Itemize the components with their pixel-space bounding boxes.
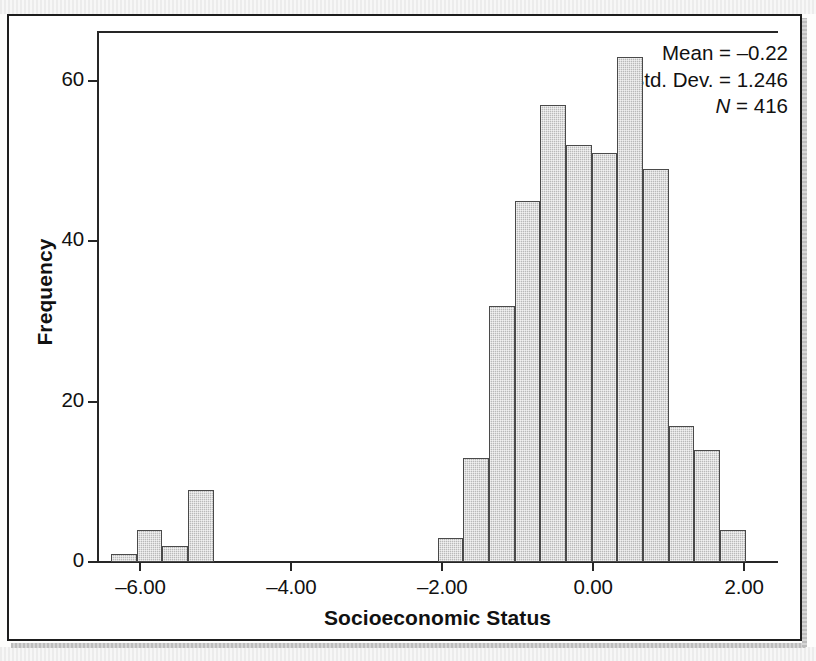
histogram-bar (566, 145, 592, 562)
y-axis-tick-label: 60 (24, 67, 84, 91)
figure-drop-shadow-right (802, 18, 807, 647)
std-dev-annotation: Std. Dev. = 1.246 (508, 67, 788, 94)
x-axis-tick-label: 2.00 (699, 575, 789, 599)
x-axis-tick-label: –6.00 (95, 575, 185, 599)
x-axis-tick (743, 562, 745, 571)
figure-canvas: –6.00–4.00–2.000.002.00 0204060 Socioeco… (0, 0, 816, 661)
y-axis-tick (88, 401, 97, 403)
y-axis-tick (88, 240, 97, 242)
n-value: = 416 (730, 94, 788, 117)
x-axis-tick-label: –2.00 (397, 575, 487, 599)
y-axis-tick-label: 0 (24, 548, 84, 572)
histogram-bar (617, 57, 643, 562)
histogram-bar (111, 554, 137, 562)
scan-noise-band-bottom (0, 647, 816, 661)
x-axis-tick-label: 0.00 (548, 575, 638, 599)
x-axis-title: Socioeconomic Status (97, 606, 778, 630)
y-axis-tick (88, 561, 97, 563)
x-axis-tick (139, 562, 141, 571)
histogram-bar (489, 306, 515, 562)
scan-noise-band-top (0, 0, 816, 14)
histogram-bar (669, 426, 695, 562)
mean-annotation: Mean = –0.22 (508, 40, 788, 67)
y-axis-tick (88, 80, 97, 82)
x-axis-tick-label: –4.00 (246, 575, 336, 599)
histogram-bar (162, 546, 188, 562)
histogram-bar (188, 490, 214, 562)
histogram-bar (643, 169, 669, 562)
x-axis-tick (290, 562, 292, 571)
figure-drop-shadow-bottom (11, 643, 806, 648)
histogram-bar (720, 530, 746, 562)
histogram-bar (515, 201, 541, 562)
histogram-bar (694, 450, 720, 562)
histogram-bar (137, 530, 163, 562)
histogram-bar (540, 105, 566, 562)
y-axis-title: Frequency (33, 172, 57, 412)
n-symbol: N (716, 94, 731, 117)
x-axis-tick (441, 562, 443, 571)
histogram-bar (463, 458, 489, 562)
histogram-bar (438, 538, 464, 562)
histogram-bar (592, 153, 618, 562)
x-axis-tick (592, 562, 594, 571)
